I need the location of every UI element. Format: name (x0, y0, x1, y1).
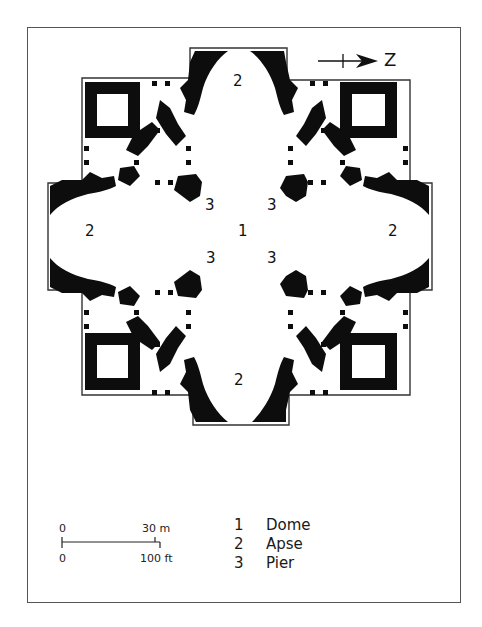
legend-number: 2 (234, 535, 266, 553)
label-apse-top: 2 (233, 74, 243, 89)
legend-number: 3 (234, 554, 266, 572)
label-pier-top-left: 3 (205, 198, 215, 213)
legend-number: 1 (234, 516, 266, 534)
scale-bottom-left: 0 (59, 552, 66, 565)
label-apse-right: 2 (388, 224, 398, 239)
scale-bottom-right: 100 ft (140, 552, 172, 565)
label-dome: 1 (238, 224, 248, 239)
legend-item-apse: 2 Apse (234, 534, 311, 553)
label-pier-bottom-right: 3 (267, 251, 277, 266)
legend: 1 Dome 2 Apse 3 Pier (234, 515, 311, 572)
scale-top-right: 30 m (142, 522, 170, 535)
label-pier-bottom-left: 3 (206, 251, 216, 266)
scale-bar: 0 30 m 0 100 ft (58, 522, 198, 572)
legend-label: Pier (266, 554, 294, 572)
label-apse-left: 2 (85, 224, 95, 239)
legend-label: Apse (266, 535, 303, 553)
legend-item-dome: 1 Dome (234, 515, 311, 534)
legend-label: Dome (266, 516, 311, 534)
scale-line (58, 536, 168, 550)
legend-item-pier: 3 Pier (234, 553, 311, 572)
label-apse-bottom: 2 (234, 373, 244, 388)
scale-top-left: 0 (59, 522, 66, 535)
north-label: Z (384, 49, 396, 70)
label-pier-top-right: 3 (267, 198, 277, 213)
